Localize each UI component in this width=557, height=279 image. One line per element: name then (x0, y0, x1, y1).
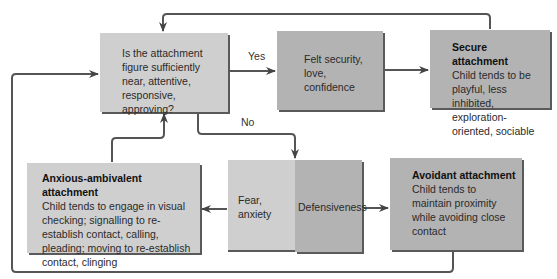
question-text: Is the attachment figure sufficiently ne… (122, 47, 203, 115)
anxious-ambivalent-text: Child tends to engage in visual checking… (42, 200, 190, 268)
fear-box: Fear, anxiety (228, 160, 295, 252)
question-box: Is the attachment figure sufficiently ne… (100, 33, 228, 112)
defensiveness-box: Defensiveness (295, 160, 362, 252)
secure-attachment-text: Child tends to be playful, less inhibite… (452, 69, 534, 137)
avoidant-attachment-title: Avoidant attachment (412, 168, 516, 182)
secure-attachment-title: Secure attachment (452, 40, 544, 68)
anxious-ambivalent-box: Anxious-ambivalent attachment Child tend… (27, 163, 200, 253)
no-label: No (241, 116, 254, 128)
fear-text: Fear, anxiety (238, 194, 271, 220)
yes-label: Yes (248, 50, 265, 62)
felt-security-box: Felt security, love, confidence (277, 31, 383, 110)
felt-security-text: Felt security, love, confidence (304, 53, 363, 93)
anxious-ambivalent-title: Anxious-ambivalent attachment (42, 171, 194, 199)
avoidant-attachment-text: Child tends to maintain proximity while … (412, 183, 505, 237)
secure-attachment-box: Secure attachment Child tends to be play… (430, 30, 550, 108)
defensiveness-text: Defensiveness (298, 201, 367, 213)
avoidant-attachment-box: Avoidant attachment Child tends to maint… (390, 158, 522, 250)
